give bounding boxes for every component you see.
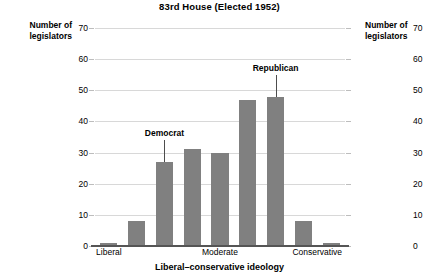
- y-tick-label-right: 20: [413, 180, 431, 189]
- bar: [156, 162, 173, 246]
- y-tick-label-left: 30: [70, 149, 88, 158]
- annotation-leader-line: [164, 140, 165, 162]
- y-tick-mark-left: [89, 59, 94, 60]
- y-tick-mark-right: [346, 90, 351, 91]
- y-tick-mark-left: [89, 215, 94, 216]
- y-tick-label-left: 50: [70, 86, 88, 95]
- y-tick-mark-left: [89, 28, 94, 29]
- y-tick-label-left: 60: [70, 55, 88, 64]
- y-tick-mark-left: [89, 184, 94, 185]
- bar: [267, 97, 284, 246]
- annotation-label: Democrat: [124, 128, 204, 138]
- plot-area: DemocratRepublican: [95, 28, 345, 246]
- y-tick-label-right: 60: [413, 55, 431, 64]
- bar: [239, 100, 256, 246]
- y-tick-label-right: 50: [413, 86, 431, 95]
- chart-title: 83rd House (Elected 1952): [0, 1, 439, 12]
- left-y-axis-title: Number of legislators: [6, 20, 72, 41]
- y-tick-mark-left: [89, 90, 94, 91]
- y-tick-label-right: 30: [413, 149, 431, 158]
- y-tick-mark-right: [346, 121, 351, 122]
- y-tick-mark-right: [346, 59, 351, 60]
- y-tick-label-left: 10: [70, 211, 88, 220]
- left-y-axis-title-line1: Number of: [6, 20, 72, 31]
- gridline: [95, 28, 345, 29]
- x-tick-label: Conservative: [272, 248, 362, 257]
- bar: [295, 221, 312, 246]
- y-tick-label-right: 40: [413, 117, 431, 126]
- y-tick-mark-right: [346, 153, 351, 154]
- y-tick-label-right: 0: [413, 242, 431, 251]
- y-tick-mark-right: [346, 184, 351, 185]
- y-tick-label-right: 10: [413, 211, 431, 220]
- annotation-leader-line: [276, 75, 277, 97]
- y-tick-label-left: 20: [70, 180, 88, 189]
- y-tick-mark-right: [346, 28, 351, 29]
- gridline: [95, 121, 345, 122]
- y-tick-mark-left: [89, 153, 94, 154]
- annotation-label: Republican: [236, 63, 316, 73]
- left-y-axis-title-line2: legislators: [6, 31, 72, 42]
- y-tick-mark-right: [346, 215, 351, 216]
- y-tick-label-right: 70: [413, 24, 431, 33]
- x-axis-title: Liberal–conservative ideology: [0, 262, 439, 272]
- x-tick-label: Liberal: [64, 248, 154, 257]
- gridline: [95, 90, 345, 91]
- y-tick-label-left: 70: [70, 24, 88, 33]
- gridline: [95, 59, 345, 60]
- y-tick-label-left: 40: [70, 117, 88, 126]
- bar: [211, 153, 228, 246]
- y-tick-mark-left: [89, 121, 94, 122]
- x-tick-label: Moderate: [175, 248, 265, 257]
- bar: [128, 221, 145, 246]
- bar: [184, 149, 201, 246]
- bar-chart: 83rd House (Elected 1952) Number of legi…: [0, 0, 439, 276]
